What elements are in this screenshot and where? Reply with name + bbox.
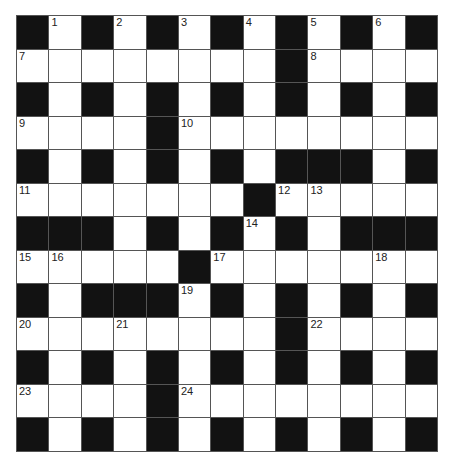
entry-cell[interactable] (49, 284, 80, 317)
entry-cell[interactable] (147, 318, 178, 351)
entry-cell[interactable] (341, 318, 372, 351)
entry-cell[interactable]: 13 (308, 184, 339, 217)
entry-cell[interactable]: 9 (17, 117, 48, 150)
entry-cell[interactable] (82, 184, 113, 217)
entry-cell[interactable] (341, 385, 372, 418)
entry-cell[interactable]: 10 (179, 117, 210, 150)
entry-cell[interactable]: 7 (17, 50, 48, 83)
entry-cell[interactable] (244, 50, 275, 83)
entry-cell[interactable] (244, 385, 275, 418)
entry-cell[interactable] (308, 284, 339, 317)
entry-cell[interactable] (49, 385, 80, 418)
entry-cell[interactable]: 20 (17, 318, 48, 351)
entry-cell[interactable] (276, 117, 307, 150)
entry-cell[interactable] (244, 351, 275, 384)
entry-cell[interactable] (308, 83, 339, 116)
entry-cell[interactable]: 23 (17, 385, 48, 418)
entry-cell[interactable] (341, 117, 372, 150)
entry-cell[interactable] (114, 83, 145, 116)
entry-cell[interactable] (406, 385, 437, 418)
entry-cell[interactable] (179, 418, 210, 451)
entry-cell[interactable] (49, 184, 80, 217)
entry-cell[interactable] (211, 117, 242, 150)
entry-cell[interactable] (308, 351, 339, 384)
entry-cell[interactable]: 1 (49, 16, 80, 49)
entry-cell[interactable] (114, 150, 145, 183)
entry-cell[interactable] (276, 385, 307, 418)
entry-cell[interactable] (49, 83, 80, 116)
entry-cell[interactable]: 21 (114, 318, 145, 351)
entry-cell[interactable] (49, 318, 80, 351)
entry-cell[interactable]: 19 (179, 284, 210, 317)
entry-cell[interactable] (244, 251, 275, 284)
entry-cell[interactable] (211, 318, 242, 351)
entry-cell[interactable] (114, 217, 145, 250)
entry-cell[interactable] (373, 385, 404, 418)
entry-cell[interactable] (114, 117, 145, 150)
entry-cell[interactable] (114, 50, 145, 83)
entry-cell[interactable] (179, 83, 210, 116)
entry-cell[interactable] (341, 184, 372, 217)
entry-cell[interactable]: 2 (114, 16, 145, 49)
entry-cell[interactable]: 4 (244, 16, 275, 49)
entry-cell[interactable] (179, 50, 210, 83)
entry-cell[interactable] (244, 83, 275, 116)
entry-cell[interactable] (147, 50, 178, 83)
entry-cell[interactable] (211, 50, 242, 83)
entry-cell[interactable] (147, 251, 178, 284)
entry-cell[interactable]: 14 (244, 217, 275, 250)
entry-cell[interactable] (373, 184, 404, 217)
entry-cell[interactable] (373, 318, 404, 351)
entry-cell[interactable] (244, 284, 275, 317)
entry-cell[interactable] (114, 184, 145, 217)
entry-cell[interactable] (147, 184, 178, 217)
entry-cell[interactable] (179, 318, 210, 351)
entry-cell[interactable] (406, 50, 437, 83)
entry-cell[interactable] (308, 117, 339, 150)
entry-cell[interactable] (276, 251, 307, 284)
entry-cell[interactable] (244, 418, 275, 451)
entry-cell[interactable] (373, 418, 404, 451)
entry-cell[interactable]: 15 (17, 251, 48, 284)
entry-cell[interactable] (114, 418, 145, 451)
entry-cell[interactable] (49, 50, 80, 83)
entry-cell[interactable] (82, 318, 113, 351)
entry-cell[interactable]: 3 (179, 16, 210, 49)
entry-cell[interactable] (82, 50, 113, 83)
entry-cell[interactable] (308, 418, 339, 451)
entry-cell[interactable] (406, 184, 437, 217)
entry-cell[interactable] (179, 150, 210, 183)
entry-cell[interactable] (308, 385, 339, 418)
entry-cell[interactable] (82, 251, 113, 284)
entry-cell[interactable] (179, 217, 210, 250)
entry-cell[interactable] (49, 418, 80, 451)
entry-cell[interactable] (49, 150, 80, 183)
entry-cell[interactable] (373, 117, 404, 150)
entry-cell[interactable] (308, 217, 339, 250)
entry-cell[interactable]: 8 (308, 50, 339, 83)
entry-cell[interactable] (49, 351, 80, 384)
entry-cell[interactable] (308, 251, 339, 284)
entry-cell[interactable] (49, 117, 80, 150)
entry-cell[interactable] (114, 385, 145, 418)
entry-cell[interactable] (244, 150, 275, 183)
entry-cell[interactable] (373, 351, 404, 384)
entry-cell[interactable]: 5 (308, 16, 339, 49)
entry-cell[interactable] (341, 251, 372, 284)
entry-cell[interactable] (211, 385, 242, 418)
entry-cell[interactable] (179, 184, 210, 217)
entry-cell[interactable] (373, 83, 404, 116)
entry-cell[interactable]: 24 (179, 385, 210, 418)
entry-cell[interactable]: 18 (373, 251, 404, 284)
entry-cell[interactable]: 16 (49, 251, 80, 284)
entry-cell[interactable]: 22 (308, 318, 339, 351)
entry-cell[interactable] (373, 284, 404, 317)
entry-cell[interactable] (406, 318, 437, 351)
entry-cell[interactable]: 6 (373, 16, 404, 49)
entry-cell[interactable]: 17 (211, 251, 242, 284)
entry-cell[interactable] (179, 351, 210, 384)
entry-cell[interactable]: 12 (276, 184, 307, 217)
entry-cell[interactable] (82, 385, 113, 418)
entry-cell[interactable] (341, 50, 372, 83)
entry-cell[interactable] (114, 351, 145, 384)
